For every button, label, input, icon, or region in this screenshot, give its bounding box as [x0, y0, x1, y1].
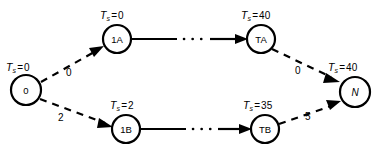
ts-subscript: s — [247, 15, 251, 22]
ts-subscript: s — [249, 105, 253, 112]
node-TB-label: TB — [259, 124, 271, 135]
ts-subscript: s — [106, 15, 110, 22]
edge-0-to-1B-arrowhead — [97, 118, 113, 128]
ts-equals: = — [111, 10, 117, 21]
ts-equals: = — [121, 100, 127, 111]
edge-weight-TB-to-N: 5 — [305, 112, 311, 122]
ts-value: 40 — [259, 10, 270, 21]
edge-1A-to-TA — [131, 34, 248, 44]
node-0-label: 0 — [23, 85, 28, 96]
node-TA-label: TA — [255, 34, 267, 45]
node-1A-label: 1A — [111, 34, 123, 45]
edge-TA-to-N-line — [272, 49, 331, 77]
ts-label-node-1B: Ts=2 — [110, 100, 134, 112]
node-1A[interactable]: 1A — [103, 25, 131, 53]
ts-label-node-TB: Ts=35 — [243, 100, 272, 112]
ts-subscript: s — [116, 105, 120, 112]
ts-label-node-0: Ts=0 — [6, 62, 30, 74]
node-TA[interactable]: TA — [247, 25, 275, 53]
ts-subscript: s — [12, 67, 16, 74]
ts-value: 2 — [128, 100, 134, 111]
edge-weight-TA-to-N: 0 — [295, 66, 301, 76]
node-N[interactable]: N — [340, 77, 370, 107]
edge-0-to-1A-arrowhead — [89, 46, 104, 57]
ts-label-node-TA: Ts=40 — [241, 10, 270, 22]
edge-TA-to-N-arrowhead — [323, 73, 340, 83]
edge-weight-0-to-1B: 2 — [58, 113, 64, 123]
node-0[interactable]: 0 — [11, 75, 41, 105]
ts-value: 0 — [24, 62, 30, 73]
edge-weight-0-to-1A: 0 — [66, 68, 72, 78]
edge-TB-to-N-arrowhead — [326, 100, 341, 110]
network-diagram: 0 1A TA 1B TB N Ts=0 Ts=0 Ts=40 — [0, 0, 381, 152]
edge-1B-to-TB — [140, 124, 252, 134]
node-1B-label: 1B — [120, 124, 132, 135]
edge-0-to-1A — [41, 46, 104, 82]
ts-label-node-N: Ts=40 — [328, 62, 357, 74]
node-N-label: N — [351, 87, 359, 98]
ts-equals: = — [17, 62, 23, 73]
node-1B[interactable]: 1B — [112, 115, 140, 143]
edge-0-to-1B — [40, 99, 113, 128]
ts-equals: = — [339, 62, 345, 73]
ts-equals: = — [254, 100, 260, 111]
ts-value: 35 — [261, 100, 272, 111]
ts-label-node-1A: Ts=0 — [100, 10, 124, 22]
diagram-canvas: 0 1A TA 1B TB N — [0, 0, 381, 152]
edge-0-to-1B-line — [40, 99, 105, 123]
ts-subscript: s — [334, 67, 338, 74]
ts-value: 40 — [346, 62, 357, 73]
ts-equals: = — [252, 10, 258, 21]
ts-value: 0 — [118, 10, 124, 21]
node-TB[interactable]: TB — [251, 115, 279, 143]
